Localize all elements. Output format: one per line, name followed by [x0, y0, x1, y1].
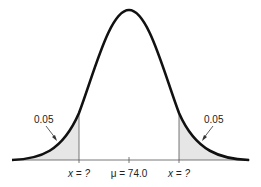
right-tail-area-label: 0.05 [204, 114, 224, 125]
left-arrowhead-icon [52, 135, 57, 141]
right-arrowhead-icon [202, 135, 207, 141]
bell-curve [12, 10, 249, 160]
normal-curve-diagram: 0.05 0.05 x = ? μ = 74.0 x = ? [0, 0, 261, 187]
mean-label: μ = 74.0 [111, 168, 148, 179]
right-cutoff-label: x = ? [167, 168, 190, 179]
left-cutoff-label: x = ? [67, 168, 90, 179]
left-tail-area-label: 0.05 [34, 114, 54, 125]
